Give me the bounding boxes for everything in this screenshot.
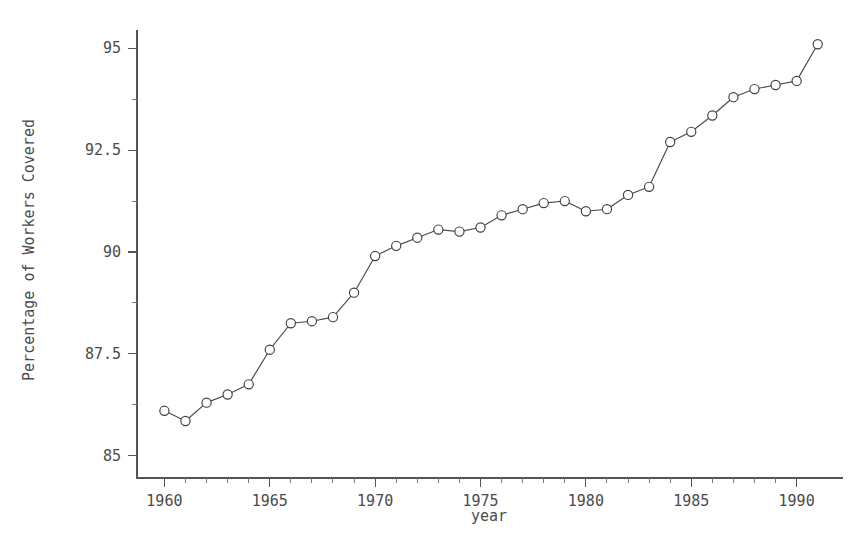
data-point-marker — [244, 380, 253, 389]
y-tick-label: 92.5 — [85, 141, 121, 159]
x-tick-label: 1965 — [252, 492, 288, 510]
axes-group: 8587.59092.595 1960196519701975198019851… — [85, 30, 843, 510]
y-tick-label: 85 — [103, 447, 121, 465]
data-point-marker — [392, 241, 401, 250]
x-axis-major-ticks — [164, 478, 796, 487]
x-tick-label: 1980 — [568, 492, 604, 510]
data-series-group — [160, 40, 823, 426]
x-tick-label: 1990 — [779, 492, 815, 510]
data-point-marker — [476, 223, 485, 232]
series-line-workers-covered — [164, 44, 817, 421]
data-point-marker — [413, 233, 422, 242]
data-point-marker — [307, 317, 316, 326]
data-point-marker — [813, 40, 822, 49]
data-point-marker — [181, 416, 190, 425]
data-point-marker — [328, 313, 337, 322]
y-axis-major-ticks — [128, 48, 137, 455]
data-point-marker — [202, 398, 211, 407]
data-point-marker — [286, 319, 295, 328]
data-point-marker — [602, 205, 611, 214]
data-point-marker — [623, 190, 632, 199]
y-tick-label: 87.5 — [85, 345, 121, 363]
data-point-marker — [455, 227, 464, 236]
data-point-marker — [223, 390, 232, 399]
data-point-marker — [581, 207, 590, 216]
y-tick-label: 90 — [103, 243, 121, 261]
y-axis-tick-labels: 8587.59092.595 — [85, 39, 121, 464]
data-point-marker — [160, 406, 169, 415]
data-point-marker — [265, 345, 274, 354]
y-axis-title: Percentage of Workers Covered — [20, 119, 38, 381]
data-point-marker — [750, 84, 759, 93]
line-chart: 8587.59092.595 1960196519701975198019851… — [0, 0, 868, 553]
data-point-marker — [539, 198, 548, 207]
data-point-marker — [771, 80, 780, 89]
data-point-marker — [560, 196, 569, 205]
data-point-marker — [349, 288, 358, 297]
data-point-marker — [666, 137, 675, 146]
data-point-marker — [729, 93, 738, 102]
data-point-marker — [645, 182, 654, 191]
y-tick-label: 95 — [103, 39, 121, 57]
data-point-marker — [687, 127, 696, 136]
x-tick-label: 1985 — [673, 492, 709, 510]
data-point-marker — [434, 225, 443, 234]
x-axis-title: year — [471, 507, 507, 525]
x-tick-label: 1970 — [357, 492, 393, 510]
data-point-marker — [708, 111, 717, 120]
chart-figure: 8587.59092.595 1960196519701975198019851… — [0, 0, 868, 553]
data-point-marker — [518, 205, 527, 214]
data-point-marker — [792, 76, 801, 85]
data-point-marker — [371, 251, 380, 260]
data-point-marker — [497, 211, 506, 220]
x-tick-label: 1960 — [146, 492, 182, 510]
